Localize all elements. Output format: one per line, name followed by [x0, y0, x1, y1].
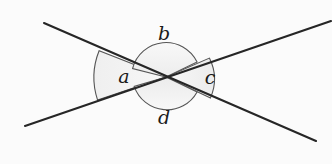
angle-figure-svg: a b c d [0, 0, 332, 164]
angle-label-d: d [158, 106, 170, 128]
angle-label-c: c [205, 66, 216, 88]
angle-label-a: a [118, 65, 129, 87]
angle-diagram-canvas: a b c d [0, 0, 332, 164]
angle-label-b: b [158, 22, 170, 44]
